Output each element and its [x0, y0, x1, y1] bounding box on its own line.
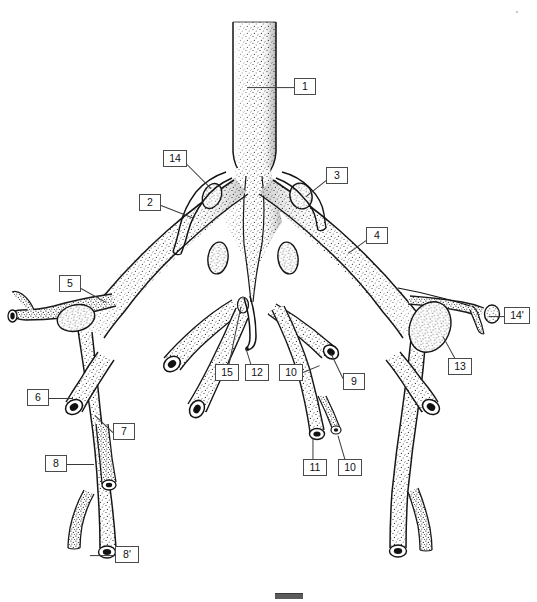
callout-label-12[interactable]: 12: [245, 364, 269, 381]
callout-text: 14: [169, 153, 181, 164]
callout-label-13[interactable]: 13: [448, 358, 472, 375]
callout-label-8p[interactable]: 8': [115, 546, 139, 563]
callout-label-9[interactable]: 9: [343, 373, 365, 390]
callout-text: 4: [374, 230, 380, 241]
callout-text: 10: [285, 367, 297, 378]
callout-text: 5: [67, 278, 73, 289]
callout-label-7[interactable]: 7: [113, 423, 135, 440]
callout-text: 8: [53, 458, 59, 469]
callout-text: 2: [147, 197, 153, 208]
leader-line-8: [67, 464, 94, 465]
callout-label-1[interactable]: 1: [294, 78, 316, 95]
callout-label-5[interactable]: 5: [59, 275, 81, 292]
callout-label-14p[interactable]: 14': [504, 307, 530, 324]
callout-label-10b[interactable]: 10: [338, 459, 362, 476]
corner-speck: [516, 11, 518, 13]
callout-text: 1: [302, 81, 308, 92]
callout-label-3[interactable]: 3: [326, 167, 348, 184]
callout-text: 9: [351, 376, 357, 387]
callout-text: 6: [35, 392, 41, 403]
anatomical-figure: 11423456788'151210911101314': [0, 0, 537, 602]
aorta-trunk: [233, 22, 276, 175]
callout-label-11[interactable]: 11: [303, 459, 327, 476]
callout-text: 14': [510, 310, 524, 321]
callout-text: 13: [454, 361, 466, 372]
leader-line-8p: [90, 555, 115, 556]
leader-line-11: [312, 439, 313, 460]
leader-line-6: [49, 398, 73, 399]
callout-label-14[interactable]: 14: [163, 150, 187, 167]
vessel-tree-illustration: [0, 0, 537, 602]
leader-line-14p: [489, 316, 504, 317]
callout-text: 7: [121, 426, 127, 437]
callout-text: 10: [344, 462, 356, 473]
callout-text: 15: [221, 367, 233, 378]
callout-label-15[interactable]: 15: [215, 364, 239, 381]
bottom-crop-mark: [275, 593, 303, 599]
central-left-branches: [161, 300, 248, 420]
callout-label-2[interactable]: 2: [139, 194, 161, 211]
callout-label-10a[interactable]: 10: [279, 364, 303, 381]
callout-label-4[interactable]: 4: [366, 227, 388, 244]
callout-label-8[interactable]: 8: [45, 455, 67, 472]
callout-text: 12: [251, 367, 263, 378]
callout-text: 11: [310, 462, 321, 473]
callout-label-6[interactable]: 6: [27, 389, 49, 406]
leader-line-1: [247, 87, 294, 88]
callout-text: 3: [334, 170, 340, 181]
callout-text: 8': [123, 549, 131, 560]
